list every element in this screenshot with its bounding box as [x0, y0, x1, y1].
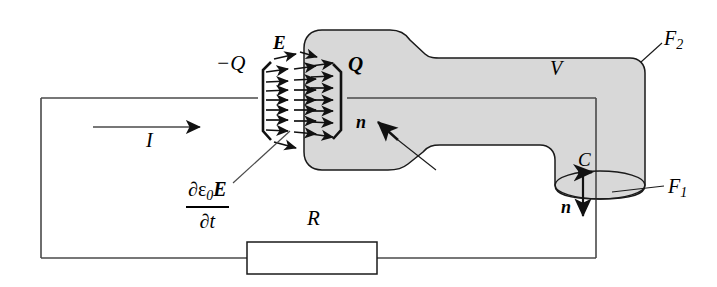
label-curve-c: C	[578, 150, 591, 169]
label-surface-f2-subscript: 2	[676, 37, 683, 52]
label-surface-f2-letter: F	[664, 27, 676, 49]
diagram-canvas	[0, 0, 717, 287]
label-normal-upper: n	[356, 113, 366, 131]
capacitor-plate-left	[263, 62, 271, 140]
displacement-field-letter: E	[213, 178, 226, 200]
displacement-denominator: ∂t	[186, 209, 229, 233]
resistor	[247, 242, 377, 274]
displacement-numerator: ∂ε0E	[186, 178, 229, 205]
curve-c-direction-arrow	[578, 172, 592, 173]
plate-left-profile	[263, 62, 271, 140]
label-surface-f2: F2	[664, 28, 683, 52]
displacement-partial-epsilon: ∂ε	[188, 178, 206, 200]
label-displacement-current: ∂ε0E ∂t	[186, 178, 229, 233]
label-surface-f1-subscript: 1	[680, 185, 687, 200]
f2-leader-line	[641, 43, 662, 62]
label-electric-field: E	[273, 33, 286, 52]
label-resistor: R	[307, 208, 320, 229]
displacement-current-leader	[233, 131, 290, 183]
label-charge-negative: −Q	[216, 53, 245, 74]
label-current: I	[146, 130, 153, 150]
label-normal-lower: n	[561, 198, 571, 216]
figure-root: −Q Q E I R V F2 F1 C n n ∂ε0E ∂t	[0, 0, 717, 287]
label-charge-positive: Q	[348, 54, 363, 75]
f2-leader	[641, 43, 662, 62]
displacement-leader-line	[233, 131, 290, 183]
label-volume: V	[550, 58, 562, 78]
label-surface-f1-letter: F	[668, 175, 680, 197]
label-surface-f1: F1	[668, 176, 687, 200]
resistor-body	[247, 242, 377, 274]
fraction-bar	[186, 206, 229, 207]
